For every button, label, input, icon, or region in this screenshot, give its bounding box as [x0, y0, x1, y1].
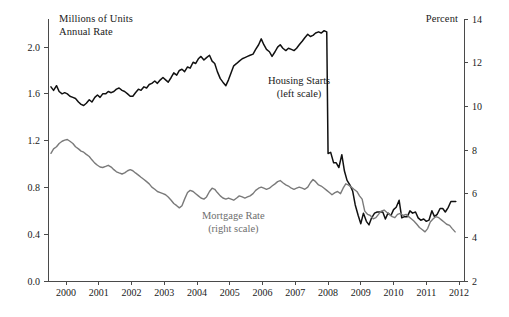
left-axis: 0.00.40.81.21.62.0 — [28, 19, 49, 287]
right-tick-label: 10 — [472, 101, 482, 112]
housing-starts-mortgage-rate-chart: Millions of Units Annual Rate Percent Ho… — [0, 0, 509, 317]
plot-area: 0.00.40.81.21.62.0 2468101214 2000200120… — [0, 0, 509, 317]
x-tick-label: 2006 — [253, 287, 273, 298]
x-tick-label: 2008 — [318, 287, 338, 298]
left-tick-label: 0.8 — [28, 182, 41, 193]
x-tick-label: 2012 — [449, 287, 469, 298]
x-tick-label: 2007 — [285, 287, 305, 298]
housing-starts-line — [51, 31, 456, 225]
x-axis: 2000200120022003200420052006200720082009… — [48, 281, 469, 298]
right-axis: 2468101214 — [464, 14, 482, 287]
x-tick-label: 2002 — [122, 287, 142, 298]
right-tick-label: 2 — [472, 276, 477, 287]
left-tick-label: 1.6 — [28, 88, 41, 99]
x-tick-label: 2009 — [351, 287, 371, 298]
right-tick-label: 14 — [472, 14, 482, 25]
left-tick-label: 0.4 — [28, 229, 41, 240]
x-tick-label: 2004 — [187, 287, 207, 298]
right-tick-label: 6 — [472, 188, 477, 199]
data-series — [51, 31, 456, 232]
x-tick-label: 2010 — [384, 287, 404, 298]
x-tick-label: 2003 — [154, 287, 174, 298]
right-tick-label: 12 — [472, 57, 482, 68]
left-tick-label: 0.0 — [28, 276, 41, 287]
x-tick-label: 2001 — [89, 287, 109, 298]
x-tick-label: 2005 — [220, 287, 240, 298]
left-tick-label: 2.0 — [28, 42, 41, 53]
right-tick-label: 8 — [472, 145, 477, 156]
mortgage-rate-line — [51, 140, 455, 232]
left-tick-label: 1.2 — [28, 135, 41, 146]
right-tick-label: 4 — [472, 232, 477, 243]
x-tick-label: 2011 — [417, 287, 437, 298]
x-tick-label: 2000 — [56, 287, 76, 298]
